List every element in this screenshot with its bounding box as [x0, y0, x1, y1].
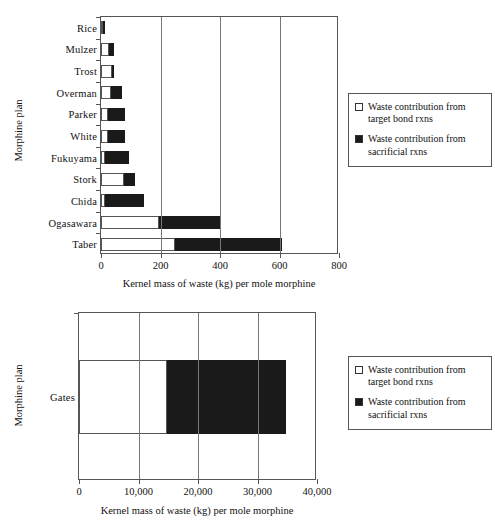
x-tick-mark: [280, 253, 281, 258]
bar-trost: [101, 65, 114, 78]
y-tick-mark: [96, 168, 101, 169]
x-tick-label: 30,000: [243, 486, 272, 497]
y-tick-label-ogasawara: Ogasawara: [49, 217, 97, 228]
bar-segment-sacrificial: [109, 43, 114, 56]
bar-white: [101, 130, 125, 143]
bottom-chart-plot-area: 010,00020,00030,00040,000Gates: [78, 312, 316, 480]
bar-taber: [101, 238, 282, 251]
top-chart: Morphine plan 0200400600800RiceMulzerTro…: [0, 0, 345, 290]
x-tick-mark: [198, 479, 199, 484]
gridline: [258, 313, 259, 479]
x-tick-mark: [339, 253, 340, 258]
bar-segment-sacrificial: [105, 151, 129, 164]
x-tick-mark: [258, 479, 259, 484]
bar-segment-target-bond: [79, 360, 167, 434]
legend-item-target-bond: Waste contribution from target bond rxns: [355, 101, 484, 125]
y-tick-mark: [96, 125, 101, 126]
top-chart-y-axis-title: Morphine plan: [13, 81, 24, 181]
x-tick-label: 20,000: [184, 486, 213, 497]
x-tick-mark: [317, 479, 318, 484]
x-tick-label: 0: [98, 260, 103, 271]
gridline: [161, 17, 162, 253]
x-tick-label: 600: [272, 260, 288, 271]
y-tick-label-trost: Trost: [74, 66, 97, 77]
legend-label-sacrificial: Waste contribution from sacrificial rxns: [368, 396, 466, 420]
y-tick-label-gates: Gates: [50, 392, 75, 403]
x-tick-mark: [139, 479, 140, 484]
bar-segment-sacrificial: [112, 65, 115, 78]
y-tick-label-white: White: [70, 131, 97, 142]
legend-label-target-bond: Waste contribution from target bond rxns: [368, 101, 466, 125]
y-tick-mark: [96, 82, 101, 83]
bottom-chart: Morphine plan 010,00020,00030,00040,000G…: [0, 300, 345, 527]
legend-item-sacrificial: Waste contribution from sacrificial rxns: [355, 133, 484, 157]
gridline: [220, 17, 221, 253]
y-tick-label-taber: Taber: [72, 239, 97, 250]
bar-segment-sacrificial: [124, 173, 135, 186]
gridline: [198, 313, 199, 479]
bar-segment-sacrificial: [108, 108, 125, 121]
bar-segment-sacrificial: [167, 360, 286, 434]
x-tick-mark: [220, 253, 221, 258]
bar-segment-sacrificial: [105, 194, 143, 207]
y-tick-mark: [96, 212, 101, 213]
bar-segment-target-bond: [101, 238, 175, 251]
black-square-icon: [355, 398, 363, 406]
bar-segment-target-bond: [101, 86, 111, 99]
bottom-chart-x-axis-title: Kernel mass of waste (kg) per mole morph…: [78, 505, 316, 516]
y-tick-mark: [96, 190, 101, 191]
bar-segment-sacrificial: [159, 216, 220, 229]
x-tick-label: 40,000: [303, 486, 332, 497]
bar-segment-sacrificial: [175, 238, 282, 251]
x-tick-mark: [79, 479, 80, 484]
bar-chida: [101, 194, 144, 207]
bar-segment-sacrificial: [111, 86, 122, 99]
y-tick-mark: [96, 60, 101, 61]
x-tick-label: 800: [331, 260, 347, 271]
bar-parker: [101, 108, 125, 121]
y-tick-label-chida: Chida: [71, 195, 97, 206]
x-tick-label: 10,000: [124, 486, 153, 497]
white-square-icon: [355, 103, 363, 111]
bar-segment-sacrificial: [108, 130, 125, 143]
bar-overman: [101, 86, 122, 99]
gridline: [139, 313, 140, 479]
y-tick-label-stork: Stork: [73, 174, 97, 185]
x-tick-label: 0: [76, 486, 81, 497]
x-tick-mark: [161, 253, 162, 258]
black-square-icon: [355, 135, 363, 143]
legend-label-sacrificial: Waste contribution from sacrificial rxns: [368, 133, 466, 157]
bar-fukuyama: [101, 151, 129, 164]
top-chart-plot-area: 0200400600800RiceMulzerTrostOvermanParke…: [100, 16, 338, 254]
legend-item-sacrificial: Waste contribution from sacrificial rxns: [355, 396, 484, 420]
bar-segment-target-bond: [101, 43, 109, 56]
y-tick-mark: [96, 104, 101, 105]
top-chart-bars: [101, 17, 337, 253]
bar-gates: [79, 360, 286, 434]
bar-rice: [101, 21, 105, 34]
x-tick-mark: [101, 253, 102, 258]
y-tick-label-mulzer: Mulzer: [65, 44, 97, 55]
y-tick-label-overman: Overman: [57, 87, 97, 98]
top-chart-x-axis-title: Kernel mass of waste (kg) per mole morph…: [100, 278, 338, 289]
y-tick-mark: [96, 17, 101, 18]
y-tick-mark: [74, 313, 79, 314]
x-tick-label: 200: [153, 260, 169, 271]
x-tick-label: 400: [212, 260, 228, 271]
y-tick-mark: [96, 39, 101, 40]
bar-segment-target-bond: [101, 65, 112, 78]
bar-mulzer: [101, 43, 114, 56]
y-tick-label-parker: Parker: [68, 109, 97, 120]
bottom-chart-bars: [79, 313, 315, 479]
white-square-icon: [355, 366, 363, 374]
top-chart-legend: Waste contribution from target bond rxns…: [348, 93, 492, 167]
bar-stork: [101, 173, 135, 186]
bottom-chart-y-axis-title: Morphine plan: [13, 346, 24, 446]
bottom-chart-legend: Waste contribution from target bond rxns…: [348, 356, 492, 430]
legend-label-target-bond: Waste contribution from target bond rxns: [368, 364, 466, 388]
y-tick-mark: [96, 233, 101, 234]
y-tick-label-fukuyama: Fukuyama: [51, 152, 97, 163]
y-tick-label-rice: Rice: [77, 22, 97, 33]
bar-segment-target-bond: [101, 216, 159, 229]
y-tick-mark: [96, 147, 101, 148]
